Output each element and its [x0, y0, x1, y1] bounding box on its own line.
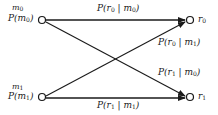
input-m0-name: m0 [12, 4, 23, 12]
output-r1-label: r1 [198, 92, 206, 101]
node-m1 [39, 94, 46, 101]
node-r0 [187, 17, 194, 24]
node-m0 [39, 17, 46, 24]
input-m1-probability: P(m1) [8, 92, 33, 101]
input-m0-probability: P(m0) [8, 14, 33, 23]
channel-diagram: m0 P(m0) m1 P(m1) r0 r1 P(r0 | m0) P(r0 … [0, 0, 218, 115]
node-r1 [187, 94, 194, 101]
output-r0-label: r0 [198, 15, 206, 24]
edge-label-r1-given-m0: P(r1 | m0) [158, 68, 200, 77]
input-m1-name: m1 [12, 83, 23, 91]
edge-label-r0-given-m1: P(r0 | m1) [158, 38, 200, 47]
edge-label-r0-given-m0: P(r0 | m0) [97, 4, 139, 13]
edge-label-r1-given-m1: P(r1 | m1) [97, 101, 139, 110]
